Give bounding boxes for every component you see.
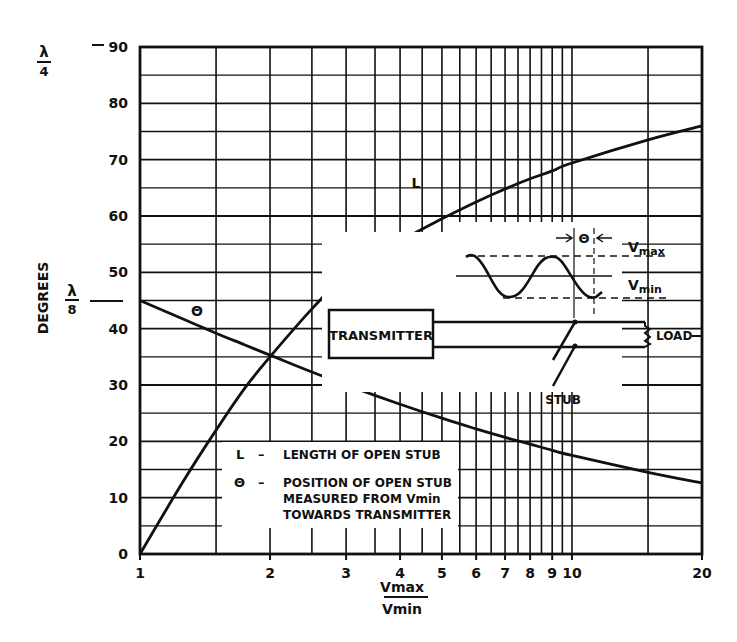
x-tick-label: 9 xyxy=(547,565,557,581)
theta-marker-label: Θ xyxy=(578,231,589,246)
y-tick-label: 20 xyxy=(109,433,129,449)
y-tick-label: 60 xyxy=(109,208,129,224)
lambda-quarter-numerator: λ xyxy=(39,43,49,61)
legend-symbol-theta: Θ xyxy=(234,475,245,490)
stub-label: STUB xyxy=(545,393,581,407)
legend-dash-theta: – xyxy=(258,475,265,490)
legend-text-theta-1: POSITION OF OPEN STUB xyxy=(283,476,452,490)
x-tick-label: 5 xyxy=(437,565,447,581)
lambda-eighth-denominator: 8 xyxy=(67,302,76,317)
legend: L – LENGTH OF OPEN STUB Θ – POSITION OF … xyxy=(222,442,458,528)
y-tick-label: 30 xyxy=(109,377,129,393)
legend-dash-L: – xyxy=(258,447,265,462)
load-label: LOAD xyxy=(656,329,692,343)
curve-label-L: L xyxy=(412,175,421,191)
vmax-label: Vmax xyxy=(628,239,665,258)
x-tick-label: 6 xyxy=(471,565,481,581)
y-tick-label: 40 xyxy=(109,321,129,337)
x-tick-label: 10 xyxy=(562,565,582,581)
y-tick-label: 50 xyxy=(109,264,129,280)
x-tick-label: 2 xyxy=(265,565,275,581)
legend-symbol-L: L xyxy=(236,447,244,462)
x-tick-label: 8 xyxy=(525,565,535,581)
lambda-quarter-mark: λ 4 xyxy=(37,43,104,79)
x-axis-title-numerator: Vmax xyxy=(380,579,424,595)
curve-label-theta: Θ xyxy=(191,303,203,319)
lambda-eighth-mark: λ 8 xyxy=(65,282,123,317)
y-tick-label: 70 xyxy=(109,152,129,168)
lambda-quarter-denominator: 4 xyxy=(39,64,48,79)
y-tick-label: 80 xyxy=(109,95,129,111)
legend-text-L: LENGTH OF OPEN STUB xyxy=(283,448,441,462)
x-tick-label: 1 xyxy=(135,565,145,581)
stub-matching-chart: 0102030405060708090 1234567891020 λ 4 λ … xyxy=(0,0,737,642)
y-tick-label: 10 xyxy=(109,490,129,506)
y-tick-label: 90 xyxy=(109,39,129,55)
y-tick-label: 0 xyxy=(118,546,128,562)
x-tick-label: 3 xyxy=(341,565,351,581)
x-tick-label: 7 xyxy=(500,565,510,581)
vmin-label: Vmin xyxy=(628,277,662,296)
legend-text-theta-2: MEASURED FROM Vmin xyxy=(283,492,441,506)
x-axis-title-denominator: Vmin xyxy=(382,601,422,617)
stub-diagram: TRANSMITTER LOAD STUB Θ Vmax Vmin xyxy=(322,222,702,407)
transmitter-label: TRANSMITTER xyxy=(329,328,433,343)
legend-text-theta-3: TOWARDS TRANSMITTER xyxy=(283,508,451,522)
y-axis-title: DEGREES xyxy=(35,262,51,335)
x-axis-title: Vmax Vmin xyxy=(380,579,428,617)
x-tick-label: 20 xyxy=(692,565,712,581)
lambda-eighth-numerator: λ xyxy=(67,282,77,300)
